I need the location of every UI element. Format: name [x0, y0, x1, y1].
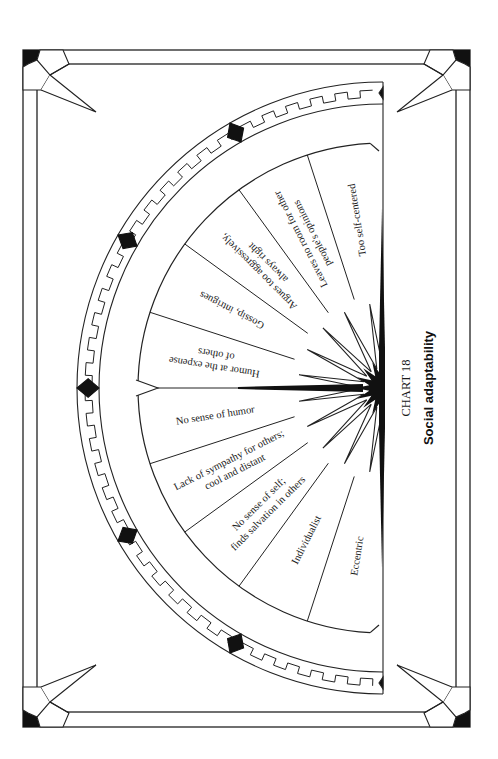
segment-label: Individualist — [289, 513, 323, 565]
center-spine — [379, 208, 385, 568]
segment-label-line: Argues too aggressively, — [218, 232, 299, 313]
social-adaptability-chart: EccentricIndividualistNo sense of self;f… — [0, 0, 498, 759]
segment-label: Eccentric — [348, 535, 365, 576]
diamond-marker — [228, 634, 244, 653]
diamond-marker — [77, 379, 99, 398]
caption: CHART 18 Social adaptability — [399, 330, 436, 445]
corner-ornament — [397, 665, 470, 727]
segment-label-line: Too self-centered — [346, 182, 368, 257]
chart-number: CHART 18 — [399, 359, 413, 416]
segment-label-line: Eccentric — [348, 535, 365, 576]
corner-ornament — [23, 50, 96, 112]
segment-label: Too self-centered — [346, 182, 368, 257]
corner-ornament — [397, 50, 470, 112]
segment-label: Humor at the expenseof others — [168, 342, 263, 380]
segment-wheel — [136, 143, 385, 632]
segment-label-line: finds salvation in others — [228, 474, 307, 553]
segment-label-line: Individualist — [289, 513, 323, 565]
corner-ornament — [23, 665, 96, 727]
segment-label-line: No sense of humor — [175, 403, 256, 426]
diamond-marker — [118, 527, 137, 543]
segment-label-line: Lack of sympathy for others; — [172, 427, 286, 492]
segment-label: No sense of humor — [175, 403, 256, 426]
chart-title: Social adaptability — [421, 330, 436, 445]
